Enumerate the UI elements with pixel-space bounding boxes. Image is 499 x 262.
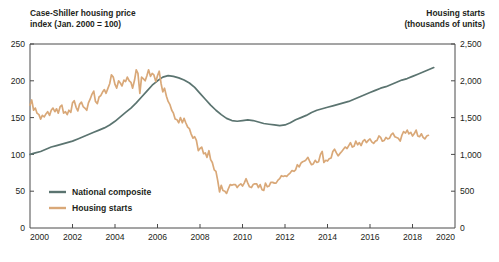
left-axis-tick-label: 0 [20,223,25,233]
left-axis-tick-label: 200 [11,76,26,86]
left-axis-tick-label: 250 [11,39,26,49]
right-axis-tick-label: 1,000 [460,150,482,160]
x-axis-tick-label: 2020 [436,232,455,242]
right-axis-tick-label: 500 [460,186,475,196]
x-axis-tick-label: 2010 [233,232,252,242]
x-axis-tick-label: 2002 [63,232,82,242]
x-axis-tick-label: 2000 [30,232,49,242]
x-axis-tick-label: 2004 [105,232,124,242]
x-axis-tick-label: 2016 [360,232,379,242]
left-axis-tick-label: 100 [11,150,26,160]
legend-label: National composite [72,187,151,197]
x-axis-tick-label: 2006 [148,232,167,242]
series-line [30,70,428,194]
right-axis-tick-label: 2,500 [460,39,482,49]
right-axis-tick-label: 0 [460,223,465,233]
chart-figure: Case-Shiller housing price index (Jan. 2… [0,0,499,262]
right-axis-tick-label: 1,500 [460,113,482,123]
x-axis-tick-label: 2014 [318,232,337,242]
right-axis-tick-label: 2,000 [460,76,482,86]
x-axis-tick-label: 2018 [403,232,422,242]
series-line [30,68,434,155]
left-axis-tick-label: 50 [15,186,25,196]
x-axis-tick-label: 2012 [275,232,294,242]
legend-label: Housing starts [72,203,132,213]
chart-plot-svg: 05010015020025005001,0001,5002,0002,5002… [0,0,499,262]
left-axis-tick-label: 150 [11,113,26,123]
x-axis-tick-label: 2008 [190,232,209,242]
